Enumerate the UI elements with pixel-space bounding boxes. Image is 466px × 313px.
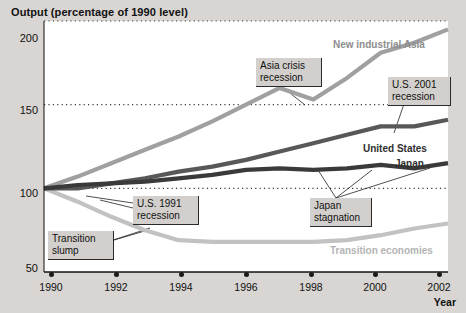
callout-us-2001-recession: U.S. 2001 recession <box>388 77 451 106</box>
x-tick-dot-1990 <box>49 272 54 277</box>
x-tick-1998: 1998 <box>291 281 331 293</box>
x-tick-1994: 1994 <box>161 281 201 293</box>
x-tick-dot-1998 <box>309 272 314 277</box>
chart-figure: Output (percentage of 1990 level) 200 15… <box>0 0 466 313</box>
x-tick-1992: 1992 <box>96 281 136 293</box>
callout-asia-crisis-recession: Asia crisis recession <box>256 58 322 87</box>
series-label-united-states: United States <box>363 143 427 154</box>
x-tick-dot-1996 <box>244 272 249 277</box>
callout-japan-stagnation: Japan stagnation <box>310 198 372 227</box>
y-tick-100: 100 <box>8 187 38 199</box>
callout-leader-line <box>336 170 372 198</box>
callout-leader-line <box>336 168 430 198</box>
x-tick-2000: 2000 <box>355 281 395 293</box>
series-line-united-states <box>44 120 448 189</box>
series-label-new-industrial-asia: New industrial Asia <box>333 39 425 50</box>
x-tick-1996: 1996 <box>226 281 266 293</box>
series-label-transition-economies: Transition economies <box>330 245 433 256</box>
x-axis-title: Year <box>434 296 456 308</box>
y-tick-150: 150 <box>8 104 38 116</box>
x-tick-dot-1994 <box>179 272 184 277</box>
x-tick-1990: 1990 <box>31 281 71 293</box>
x-tick-dot-2002 <box>437 272 442 277</box>
callout-transition-slump: Transition slump <box>48 231 114 260</box>
x-tick-2002: 2002 <box>419 281 459 293</box>
callout-us-1991-recession: U.S. 1991 recession <box>133 196 199 225</box>
callout-leader-line <box>318 170 336 198</box>
x-tick-dot-1992 <box>114 272 119 277</box>
series-label-japan: Japan <box>395 158 424 169</box>
callout-leader-line <box>100 200 133 208</box>
y-tick-200: 200 <box>8 32 38 44</box>
y-tick-50: 50 <box>8 262 38 274</box>
x-tick-dot-2000 <box>373 272 378 277</box>
